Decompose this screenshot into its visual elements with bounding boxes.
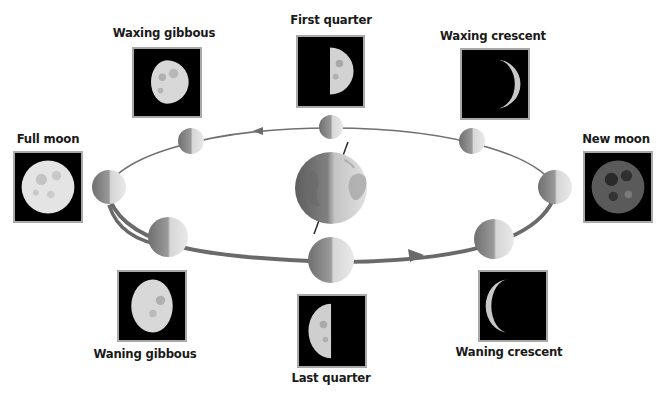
- photo-waxing-crescent: [460, 48, 530, 120]
- photo-full-moon: [13, 151, 83, 223]
- moon-phases-diagram: Waxing gibbous First quarter Waxing cres…: [0, 0, 665, 394]
- orbit-moon-full: [92, 170, 126, 204]
- orbit-moon-last-quarter: [308, 237, 354, 283]
- photo-waxing-gibbous: [132, 47, 202, 118]
- moon-new-icon: [585, 153, 651, 221]
- label-last-quarter: Last quarter: [291, 370, 370, 385]
- moon-last-quarter-icon: [299, 296, 365, 366]
- orbit-moon-first-quarter: [319, 115, 343, 139]
- label-full-moon: Full moon: [17, 131, 80, 146]
- orbit-arrow-top-icon: [253, 127, 263, 135]
- label-waning-crescent: Waning crescent: [456, 344, 563, 359]
- orbit-moon-waning-crescent: [474, 219, 514, 259]
- moon-waning-gibbous-icon: [119, 272, 185, 340]
- photo-first-quarter: [296, 35, 365, 108]
- orbit-moon-waxing-crescent: [459, 128, 485, 154]
- label-waxing-crescent: Waxing crescent: [440, 28, 546, 43]
- moon-waxing-gibbous-icon: [134, 49, 200, 116]
- photo-waning-gibbous: [117, 270, 187, 342]
- photo-waning-crescent: [478, 270, 548, 342]
- moon-first-quarter-icon: [298, 37, 363, 106]
- orbit-moon-waxing-gibbous: [178, 128, 204, 154]
- moon-waxing-crescent-icon: [462, 50, 528, 118]
- photo-new-moon: [583, 151, 653, 223]
- label-waning-gibbous: Waning gibbous: [93, 346, 196, 361]
- orbit-moon-waning-gibbous: [148, 217, 188, 257]
- label-first-quarter: First quarter: [290, 12, 371, 27]
- moon-full-icon: [15, 153, 81, 221]
- moon-waning-crescent-icon: [480, 272, 546, 340]
- label-new-moon: New moon: [582, 131, 650, 146]
- photo-last-quarter: [297, 294, 367, 368]
- orbit-moon-new: [538, 170, 572, 204]
- earth-icon: [295, 142, 367, 234]
- label-waxing-gibbous: Waxing gibbous: [113, 25, 215, 40]
